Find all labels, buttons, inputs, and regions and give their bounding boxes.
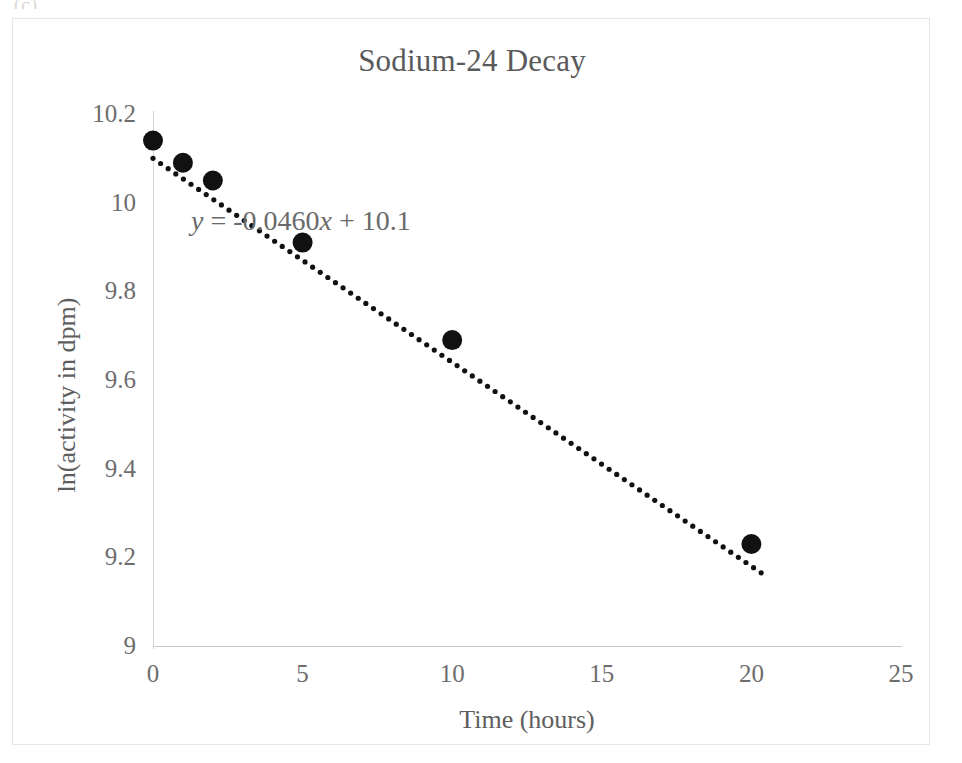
trendline-dot — [492, 389, 497, 394]
trendline-dot — [675, 513, 680, 518]
trendline-dot — [523, 410, 528, 415]
trendline-dot — [690, 524, 695, 529]
trendline-dot — [158, 161, 163, 166]
chart-data-layer — [13, 19, 931, 746]
trendline-dot — [637, 487, 642, 492]
data-point — [173, 153, 193, 173]
equation-suffix: + 10.1 — [332, 205, 411, 236]
trendline-dot — [272, 239, 277, 244]
trendline-dot — [561, 436, 566, 441]
trendline-dot — [150, 156, 155, 161]
data-point — [143, 131, 163, 151]
equation-y-var: y — [191, 205, 203, 236]
trendline-equation: y = -0.0460x + 10.1 — [191, 205, 411, 237]
chart-frame: Sodium-24 Decay 99.29.49.69.81010.2 0510… — [12, 18, 930, 745]
trendline-dot — [333, 280, 338, 285]
trendline-dot — [500, 394, 505, 399]
trendline-dot — [576, 446, 581, 451]
trendline-dot — [553, 430, 558, 435]
trendline-dot — [196, 187, 201, 192]
trendline-dot — [166, 166, 171, 171]
trendline-dot — [683, 518, 688, 523]
trendline-dot — [181, 176, 186, 181]
trendline-dot — [173, 171, 178, 176]
trendline-dot — [280, 244, 285, 249]
trendline-dot — [416, 337, 421, 342]
trendline-dot — [698, 529, 703, 534]
trendline-dot — [340, 285, 345, 290]
trendline-dot — [759, 570, 764, 575]
y-axis-title: ln(activity in dpm) — [52, 195, 82, 595]
trendline-dot — [652, 498, 657, 503]
trendline-dot — [751, 565, 756, 570]
trendline-dot — [584, 451, 589, 456]
trendline-dot — [538, 420, 543, 425]
data-point-markers — [143, 131, 761, 554]
trendline-dot — [667, 508, 672, 513]
trendline-dot — [728, 550, 733, 555]
trendline-dot — [424, 342, 429, 347]
trendline-dot — [591, 456, 596, 461]
trendline-dot — [401, 327, 406, 332]
equation-body: = -0.0460 — [203, 205, 319, 236]
trendline-dot — [386, 316, 391, 321]
trendline-dot — [629, 482, 634, 487]
trendline-dot — [713, 539, 718, 544]
trendline-dot — [470, 373, 475, 378]
trendline-dot — [622, 477, 627, 482]
trendline-dot — [645, 493, 650, 498]
trendline-dot — [599, 461, 604, 466]
trendline-dot — [325, 275, 330, 280]
trendline-dot — [569, 441, 574, 446]
trendline-dot — [409, 332, 414, 337]
trendline-dot — [204, 192, 209, 197]
equation-x-var: x — [320, 205, 332, 236]
trendline-dot — [736, 555, 741, 560]
trendline-dot — [614, 472, 619, 477]
trendline-dot — [485, 384, 490, 389]
trendline-dot — [508, 399, 513, 404]
trendline-dot — [356, 296, 361, 301]
trendline-dot — [607, 467, 612, 472]
trendline-dot — [531, 415, 536, 420]
trendline-dot — [378, 311, 383, 316]
trendline-dot — [287, 249, 292, 254]
trendline-dot — [302, 259, 307, 264]
trendline-dot — [454, 363, 459, 368]
trendline-dot — [432, 347, 437, 352]
trendline-dot — [546, 425, 551, 430]
trendline-dot — [705, 534, 710, 539]
trendline-dot — [310, 265, 315, 270]
data-point — [203, 171, 223, 191]
data-point — [442, 330, 462, 350]
trendline-dot — [363, 301, 368, 306]
trendline-dot — [295, 254, 300, 259]
trendline-dot — [318, 270, 323, 275]
trendline-dot — [394, 322, 399, 327]
trendline-dot — [462, 368, 467, 373]
data-point — [741, 534, 761, 554]
trendline-dot — [188, 182, 193, 187]
trendline-dot — [439, 353, 444, 358]
trendline-dot — [211, 197, 216, 202]
page-artifact-text: (c) — [14, 0, 60, 9]
trendline-dot — [743, 560, 748, 565]
trendline-dot — [660, 503, 665, 508]
trendline-dot — [371, 306, 376, 311]
trendline-dot — [348, 290, 353, 295]
trendline-dot — [721, 544, 726, 549]
trendline-dot — [477, 379, 482, 384]
trendline-dot — [515, 404, 520, 409]
x-axis-title: Time (hours) — [153, 705, 901, 735]
trendline-dot — [447, 358, 452, 363]
